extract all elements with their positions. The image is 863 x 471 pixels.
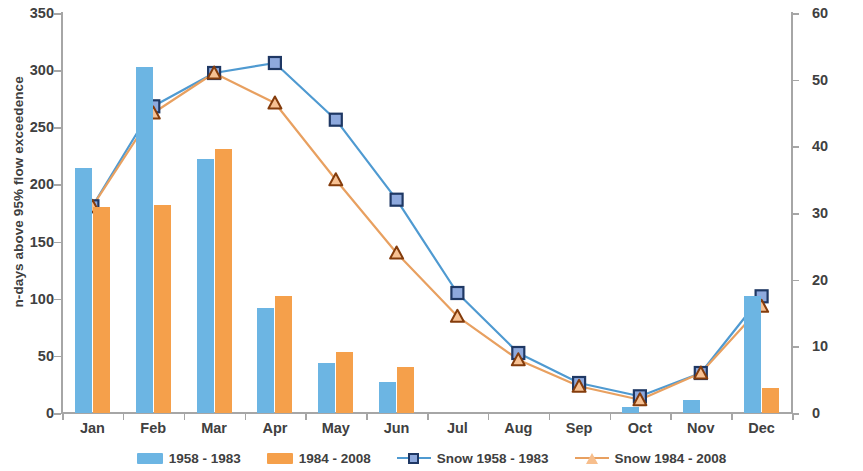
- bar: [93, 207, 110, 413]
- triangle-marker-icon: [586, 453, 598, 464]
- y-axis-right-tick-label: 40: [812, 139, 856, 154]
- x-axis-category-label: Jan: [62, 420, 122, 436]
- y-axis-left-tick-label: 0: [10, 406, 54, 421]
- y-axis-right-tickmark: [792, 213, 799, 215]
- square-marker-icon: [408, 453, 419, 464]
- y-axis-left-tickmark: [54, 413, 61, 415]
- legend-item[interactable]: Snow 1984 - 2008: [575, 451, 727, 466]
- legend-item[interactable]: 1958 - 1983: [137, 451, 241, 466]
- x-axis-category-label: Dec: [732, 420, 792, 436]
- bar: [744, 296, 761, 413]
- bar: [318, 363, 335, 413]
- legend-marker-triangle-icon: [586, 453, 598, 464]
- legend-swatch-bar: [137, 453, 163, 464]
- y-axis-right-tickmark: [792, 346, 799, 348]
- legend-marker-square-icon: [408, 453, 419, 464]
- snow-line-early: [92, 63, 761, 396]
- y-axis-left-tick-label: 250: [10, 120, 54, 135]
- bar: [257, 308, 274, 413]
- x-axis-tickmark: [62, 413, 64, 420]
- snow-lines-layer: [62, 13, 792, 413]
- bar: [275, 296, 292, 413]
- bar: [379, 382, 396, 413]
- plot-area: [62, 13, 792, 413]
- x-axis-tickmark: [427, 413, 429, 420]
- bar: [622, 407, 639, 413]
- y-axis-left-ticks: 050100150200250300350: [10, 0, 54, 471]
- y-axis-right-tickmark: [792, 146, 799, 148]
- y-axis-right-ticks: 0102030405060: [812, 0, 856, 471]
- snow-marker-square: [330, 114, 342, 126]
- snow-marker-triangle: [268, 97, 281, 109]
- bar: [154, 205, 171, 413]
- y-axis-left-tickmark: [54, 242, 61, 244]
- x-axis-tickmark: [549, 413, 551, 420]
- y-axis-left-tickmark: [54, 70, 61, 72]
- x-axis-tickmark: [305, 413, 307, 420]
- legend-swatch-line: [575, 451, 609, 465]
- bar: [336, 352, 353, 413]
- y-axis-right-tick-label: 10: [812, 339, 856, 354]
- bar: [136, 67, 153, 413]
- y-axis-left-tick-label: 100: [10, 292, 54, 307]
- legend-item-label: Snow 1958 - 1983: [437, 451, 549, 466]
- snow-marker-square: [451, 287, 463, 299]
- bar: [215, 149, 232, 413]
- bar: [397, 367, 414, 413]
- bar: [75, 168, 92, 413]
- x-axis-tickmark: [245, 413, 247, 420]
- snow-marker-square: [391, 194, 403, 206]
- x-axis-tickmark: [184, 413, 186, 420]
- x-axis-category-label: Nov: [671, 420, 731, 436]
- y-axis-right-tick-label: 50: [812, 73, 856, 88]
- snow-marker-square: [269, 57, 281, 69]
- y-axis-left-tickmark: [54, 184, 61, 186]
- legend-item-label: 1958 - 1983: [169, 451, 241, 466]
- x-axis-tickmark: [670, 413, 672, 420]
- y-axis-left-tickmark: [54, 13, 61, 15]
- bar: [197, 159, 214, 413]
- y-axis-left-tick-label: 50: [10, 349, 54, 364]
- x-axis-category-label: Jun: [367, 420, 427, 436]
- y-axis-right-tick-label: 60: [812, 6, 856, 21]
- legend-item[interactable]: Snow 1958 - 1983: [397, 451, 549, 466]
- legend-item-label: 1984 - 2008: [299, 451, 371, 466]
- x-axis-category-label: Oct: [610, 420, 670, 436]
- y-axis-right-tickmark: [792, 280, 799, 282]
- y-axis-left-tick-label: 300: [10, 63, 54, 78]
- legend-item-label: Snow 1984 - 2008: [615, 451, 727, 466]
- x-axis-tickmark: [610, 413, 612, 420]
- y-axis-left-tickmark: [54, 127, 61, 129]
- y-axis-left-tickmark: [54, 299, 61, 301]
- x-axis-tickmark: [123, 413, 125, 420]
- chart-container: n-days above 95% flow exceedence Average…: [0, 0, 863, 471]
- y-axis-left-tick-label: 200: [10, 177, 54, 192]
- y-axis-right-tickmark: [792, 80, 799, 82]
- y-axis-right-tick-label: 30: [812, 206, 856, 221]
- x-axis-category-label: May: [306, 420, 366, 436]
- x-axis-category-label: Apr: [245, 420, 305, 436]
- y-axis-left-tickmark: [54, 356, 61, 358]
- x-axis-tickmark: [731, 413, 733, 420]
- x-axis-category-label: Sep: [549, 420, 609, 436]
- x-axis-category-label: Aug: [488, 420, 548, 436]
- snow-line-late: [92, 73, 761, 400]
- y-axis-right-tick-label: 20: [812, 273, 856, 288]
- legend-swatch-bar: [267, 453, 293, 464]
- x-axis-category-label: Mar: [184, 420, 244, 436]
- y-axis-left-tick-label: 350: [10, 6, 54, 21]
- x-axis-category-label: Feb: [123, 420, 183, 436]
- x-axis-category-label: Jul: [427, 420, 487, 436]
- y-axis-left-tick-label: 150: [10, 235, 54, 250]
- y-axis-right-tickmark: [792, 13, 799, 15]
- x-axis-tickmark: [488, 413, 490, 420]
- chart-legend: 1958 - 19831984 - 2008Snow 1958 - 1983Sn…: [0, 445, 863, 471]
- legend-swatch-line: [397, 451, 431, 465]
- x-axis-tickmark: [366, 413, 368, 420]
- x-axis-tickmark: [792, 413, 794, 420]
- legend-item[interactable]: 1984 - 2008: [267, 451, 371, 466]
- bar: [762, 388, 779, 413]
- y-axis-right-tick-label: 0: [812, 406, 856, 421]
- bar: [683, 400, 700, 413]
